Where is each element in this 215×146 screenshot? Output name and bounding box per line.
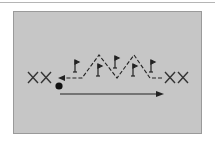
pass-arrowhead-icon — [156, 91, 164, 97]
flag-icon — [73, 60, 79, 72]
flag-icon — [131, 64, 137, 76]
left-players-xx — [28, 72, 51, 83]
drill-diagram — [0, 0, 215, 146]
flag-icon — [113, 56, 119, 68]
dribble-path — [64, 55, 162, 78]
flag-icon — [96, 64, 102, 76]
flag-icon — [149, 60, 155, 72]
right-players-xx — [165, 72, 188, 83]
dribble-arrowhead-icon — [58, 75, 65, 81]
ball-icon — [55, 82, 62, 89]
